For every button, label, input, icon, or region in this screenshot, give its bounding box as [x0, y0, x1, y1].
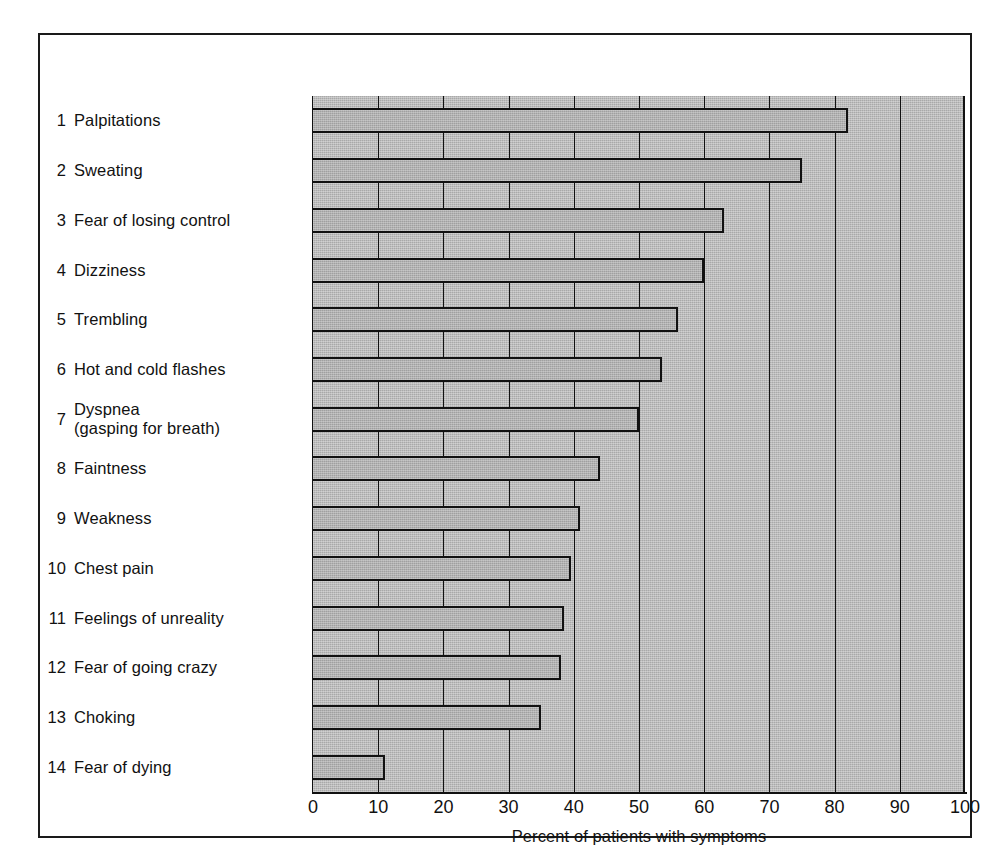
category-label-10: 10Chest pain [40, 555, 268, 581]
category-labels-column: 1Palpitations2Sweating3Fear of losing co… [40, 35, 275, 731]
x-tick-10: 10 [348, 797, 408, 818]
category-label-14: 14Fear of dying [40, 754, 268, 780]
category-label-5: 5Trembling [40, 307, 268, 333]
x-tick-100: 100 [935, 797, 995, 818]
category-label-9: 9Weakness [40, 506, 268, 532]
category-number-2: 2 [40, 161, 66, 180]
category-text-2: Sweating [74, 161, 143, 180]
gridline-10 [378, 96, 379, 792]
category-number-14: 14 [40, 758, 66, 777]
category-text-12: Fear of going crazy [74, 658, 217, 677]
gridline-20 [443, 96, 444, 792]
gridline-30 [509, 96, 510, 792]
bar-7 [313, 407, 639, 432]
bar-8 [313, 456, 600, 481]
x-tick-20: 20 [413, 797, 473, 818]
x-tick-50: 50 [609, 797, 669, 818]
category-text-10: Chest pain [74, 559, 154, 578]
category-number-3: 3 [40, 211, 66, 230]
category-text-4: Dizziness [74, 261, 146, 280]
bar-9 [313, 506, 580, 531]
x-axis-title: Percent of patients with symptoms [313, 827, 965, 846]
category-label-3: 3Fear of losing control [40, 207, 268, 233]
category-number-7: 7 [40, 410, 66, 429]
bar-6 [313, 357, 662, 382]
x-tick-30: 30 [479, 797, 539, 818]
figure-frame: 1Palpitations2Sweating3Fear of losing co… [38, 33, 972, 838]
gridline-50 [639, 96, 640, 792]
bar-10 [313, 556, 571, 581]
category-number-12: 12 [40, 658, 66, 677]
x-tick-40: 40 [544, 797, 604, 818]
bar-5 [313, 307, 678, 332]
bar-11 [313, 606, 564, 631]
x-tick-70: 70 [739, 797, 799, 818]
gridline-70 [769, 96, 770, 792]
category-number-10: 10 [40, 559, 66, 578]
category-text-14: Fear of dying [74, 758, 172, 777]
bar-2 [313, 158, 802, 183]
category-number-1: 1 [40, 111, 66, 130]
chart-page: 1Palpitations2Sweating3Fear of losing co… [0, 0, 998, 861]
category-number-13: 13 [40, 708, 66, 727]
gridline-60 [704, 96, 705, 792]
category-label-8: 8Faintness [40, 456, 268, 482]
bar-13 [313, 705, 541, 730]
category-text-6: Hot and cold flashes [74, 360, 226, 379]
gridline-80 [835, 96, 836, 792]
bar-4 [313, 258, 704, 283]
category-number-4: 4 [40, 261, 66, 280]
bar-1 [313, 108, 848, 133]
gridline-90 [900, 96, 901, 792]
category-label-12: 12Fear of going crazy [40, 655, 268, 681]
x-tick-80: 80 [805, 797, 865, 818]
category-number-6: 6 [40, 360, 66, 379]
category-text-5: Trembling [74, 310, 148, 329]
category-label-13: 13Choking [40, 704, 268, 730]
category-label-1: 1Palpitations [40, 108, 268, 134]
plot-area [313, 96, 965, 792]
category-text-7: Dyspnea(gasping for breath) [74, 400, 220, 438]
category-label-2: 2Sweating [40, 158, 268, 184]
gridline-40 [574, 96, 575, 792]
category-text-11: Feelings of unreality [74, 609, 224, 628]
category-number-9: 9 [40, 509, 66, 528]
category-number-11: 11 [40, 609, 66, 628]
bar-3 [313, 208, 724, 233]
category-number-5: 5 [40, 310, 66, 329]
category-number-8: 8 [40, 459, 66, 478]
category-text-8: Faintness [74, 459, 146, 478]
category-text-13: Choking [74, 708, 135, 727]
category-label-4: 4Dizziness [40, 257, 268, 283]
gridline-100 [963, 96, 965, 792]
x-tick-60: 60 [674, 797, 734, 818]
category-label-6: 6Hot and cold flashes [40, 356, 268, 382]
category-text-9: Weakness [74, 509, 152, 528]
bar-14 [313, 755, 385, 780]
bar-12 [313, 655, 561, 680]
x-axis-line [313, 792, 967, 794]
category-label-11: 11Feelings of unreality [40, 605, 268, 631]
x-tick-90: 90 [870, 797, 930, 818]
category-text-3: Fear of losing control [74, 211, 230, 230]
x-tick-0: 0 [283, 797, 343, 818]
category-label-7: 7Dyspnea(gasping for breath) [40, 397, 268, 441]
category-text-1: Palpitations [74, 111, 161, 130]
